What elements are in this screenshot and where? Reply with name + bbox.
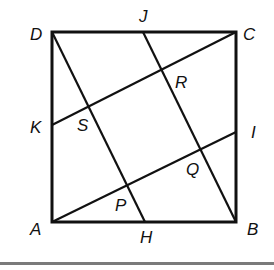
segment-DH [52, 32, 145, 222]
label-D: D [30, 25, 42, 44]
segment-AI [52, 132, 236, 222]
label-J: J [138, 7, 148, 26]
bottom-divider [0, 262, 274, 265]
label-K: K [30, 118, 42, 137]
label-H: H [140, 228, 153, 247]
label-R: R [175, 73, 187, 92]
label-Q: Q [186, 160, 199, 179]
label-A: A [29, 220, 41, 239]
geometry-diagram: D J C R K S I Q P A H B [0, 0, 274, 270]
segment-JB [143, 32, 236, 222]
label-S: S [77, 116, 89, 135]
segment-KC [52, 32, 236, 125]
label-P: P [115, 196, 127, 215]
point-labels: D J C R K S I Q P A H B [29, 7, 258, 247]
label-B: B [247, 220, 258, 239]
label-I: I [251, 123, 256, 142]
label-C: C [243, 25, 256, 44]
